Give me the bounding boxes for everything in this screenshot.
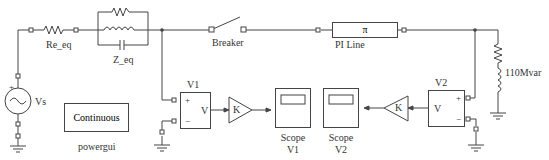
powergui-label: powergui [78, 142, 116, 152]
load-label: 110Mvar [505, 68, 541, 78]
wiring-layer [0, 0, 549, 160]
load-inductor-icon [498, 68, 501, 92]
scope-v1-label-2: V1 [276, 145, 310, 155]
z-eq-resistor-icon [112, 8, 129, 16]
load-resistor-icon [494, 44, 502, 63]
v2-minus: − [456, 115, 461, 124]
scope-v2-label-1: Scope [324, 133, 358, 143]
pi-symbol: π [362, 24, 367, 35]
pi-line-block[interactable]: π [332, 22, 398, 38]
re-eq-label: Re_eq [46, 40, 72, 50]
source-label: Vs [35, 97, 46, 107]
v1-out: V [201, 106, 208, 116]
resistor-re-eq-icon [44, 26, 63, 34]
gain1-label: K [233, 105, 240, 115]
v2-plus: + [456, 94, 461, 103]
scope-v2-label-2: V2 [324, 145, 358, 155]
breaker-switch-icon [213, 17, 240, 29]
z-eq-label: Z_eq [113, 55, 134, 65]
z-eq-inductor-icon [104, 27, 134, 30]
breaker-label: Breaker [212, 38, 244, 48]
source-plus: + [9, 83, 14, 92]
wire-source-top [18, 30, 30, 74]
v1-title: V1 [187, 80, 199, 90]
scope-v2-block[interactable] [323, 88, 359, 128]
scope-v1-label-1: Scope [276, 133, 310, 143]
v1-minus: − [185, 117, 190, 126]
pi-line-label: PI Line [335, 40, 365, 50]
v1-voltage-measurement[interactable]: + − V [180, 92, 211, 129]
v2-voltage-measurement[interactable]: + − V [428, 90, 465, 127]
gain2-label: K [395, 103, 402, 113]
v1-plus: + [185, 96, 190, 105]
v2-out: V [434, 104, 441, 114]
powergui-block[interactable]: Continuous [64, 103, 129, 132]
ac-wave-icon [10, 98, 26, 104]
v2-title: V2 [435, 78, 447, 88]
powergui-mode: Continuous [73, 112, 119, 123]
scope-v1-block[interactable] [275, 88, 311, 128]
